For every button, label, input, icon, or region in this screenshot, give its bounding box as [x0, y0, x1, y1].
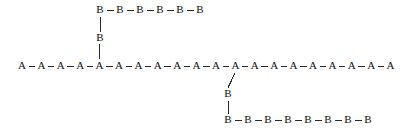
graft-chain-node-b: B — [304, 113, 311, 125]
backbone-node-a: A — [290, 59, 298, 71]
backbone-node-a: A — [18, 59, 26, 71]
backbone-node-a: A — [212, 59, 220, 71]
graft-chain-node-b: B — [344, 113, 351, 125]
graft-chain-node-b: B — [324, 113, 331, 125]
backbone-node-a: A — [193, 59, 201, 71]
graft-copolymer-diagram: AAAAAAAAAAAAAAAAAAAABBBBBBBBBBBBBBBB — [0, 0, 408, 133]
backbone-node-a: A — [270, 59, 278, 71]
backbone-node-a: A — [173, 59, 181, 71]
diagram-canvas: AAAAAAAAAAAAAAAAAAAABBBBBBBBBBBBBBBB — [0, 0, 408, 133]
node-layer: AAAAAAAAAAAAAAAAAAAABBBBBBBBBBBBBBBB — [18, 3, 395, 125]
graft-stem-node-b: B — [96, 31, 103, 43]
graft-chain-node-b: B — [116, 3, 123, 15]
backbone-node-a: A — [37, 59, 45, 71]
backbone-node-a: A — [231, 59, 239, 71]
backbone-node-a: A — [154, 59, 162, 71]
backbone-node-a: A — [367, 59, 375, 71]
graft-stem-bond — [228, 73, 235, 88]
backbone-node-a: A — [134, 59, 142, 71]
graft-chain-node-b: B — [224, 113, 231, 125]
backbone-node-a: A — [96, 59, 104, 71]
graft-chain-node-b: B — [176, 3, 183, 15]
graft-chain-node-b: B — [284, 113, 291, 125]
graft-chain-node-b: B — [196, 3, 203, 15]
backbone-node-a: A — [57, 59, 65, 71]
graft-chain-node-b: B — [96, 3, 103, 15]
backbone-node-a: A — [348, 59, 356, 71]
backbone-node-a: A — [309, 59, 317, 71]
backbone-node-a: A — [115, 59, 123, 71]
backbone-node-a: A — [387, 59, 395, 71]
graft-chain-node-b: B — [244, 113, 251, 125]
backbone-node-a: A — [328, 59, 336, 71]
graft-chain-node-b: B — [136, 3, 143, 15]
graft-chain-node-b: B — [364, 113, 371, 125]
backbone-node-a: A — [76, 59, 84, 71]
graft-stem-node-b: B — [224, 87, 231, 99]
backbone-node-a: A — [251, 59, 259, 71]
graft-chain-node-b: B — [156, 3, 163, 15]
graft-chain-node-b: B — [264, 113, 271, 125]
